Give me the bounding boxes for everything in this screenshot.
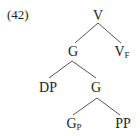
node-pp: PP — [115, 117, 131, 131]
edge-g-pp — [97, 98, 120, 115]
node-label: G — [91, 80, 101, 95]
node-g-top: G — [68, 45, 78, 59]
edge-v-vf — [98, 23, 121, 43]
edge-v-g — [75, 23, 98, 43]
edge-g-gp — [73, 98, 97, 115]
node-g-mid: G — [91, 81, 101, 95]
node-label: PP — [115, 116, 131, 131]
node-label: V — [114, 44, 124, 59]
node-v-f: VF — [114, 45, 129, 62]
node-subscript: P — [77, 122, 82, 132]
node-label: G — [66, 116, 76, 131]
node-v-root: V — [93, 9, 103, 23]
edge-g-dp — [49, 61, 72, 78]
edge-g-g — [72, 61, 96, 78]
node-dp: DP — [39, 81, 57, 95]
node-g-p: GP — [66, 117, 81, 134]
node-label: V — [93, 8, 103, 23]
node-label: DP — [39, 80, 57, 95]
node-subscript: F — [125, 50, 130, 60]
node-label: G — [68, 44, 78, 59]
